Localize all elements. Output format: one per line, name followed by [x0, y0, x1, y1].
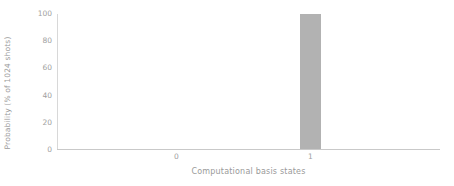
y-tick-label: 100 [26, 10, 52, 18]
y-tick-label: 0 [26, 146, 52, 154]
y-tick-label: 40 [26, 92, 52, 100]
y-tick-label: 80 [26, 37, 52, 45]
plot-area [57, 14, 440, 150]
bar-state-1 [300, 14, 321, 149]
y-axis-line [57, 14, 58, 150]
x-axis-line [57, 149, 440, 150]
x-tick-label: 1 [291, 152, 331, 162]
y-axis-tick-labels: 100 80 60 40 20 0 [26, 14, 52, 150]
y-axis-title: Probability (% of 1024 shots) [0, 0, 14, 186]
y-tick-label: 60 [26, 64, 52, 72]
y-tick-label: 20 [26, 119, 52, 127]
x-tick-label: 0 [157, 152, 197, 162]
x-axis-tick-labels: 0 1 [57, 152, 440, 164]
x-axis-title: Computational basis states [57, 167, 440, 176]
probability-bar-chart: Probability (% of 1024 shots) 100 80 60 … [0, 0, 454, 186]
